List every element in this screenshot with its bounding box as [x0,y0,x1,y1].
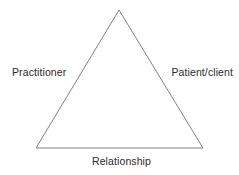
triangle-outline [36,10,203,148]
triangle-diagram: Practitioner Patient/client Relationship [0,0,239,175]
label-relationship: Relationship [0,155,239,167]
label-practitioner: Practitioner [12,66,66,78]
label-patient-client: Patient/client [171,66,233,78]
triangle-shape [0,0,239,175]
